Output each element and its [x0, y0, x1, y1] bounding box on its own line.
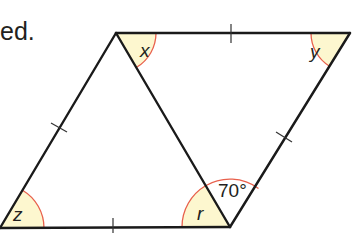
angle-y-label: y: [308, 41, 321, 62]
angle-r-label: r: [197, 203, 204, 224]
diagonal: [116, 33, 230, 227]
angle-x-shade: [116, 33, 156, 67]
angle-70-label: 70°: [218, 180, 247, 201]
edge-bottom: [0, 227, 230, 228]
parallelogram-diagram: x y z r 70°: [0, 0, 357, 233]
angle-x-label: x: [139, 40, 151, 61]
angle-z-label: z: [12, 204, 23, 225]
edge-right: [230, 33, 350, 227]
edge-left: [0, 33, 116, 228]
